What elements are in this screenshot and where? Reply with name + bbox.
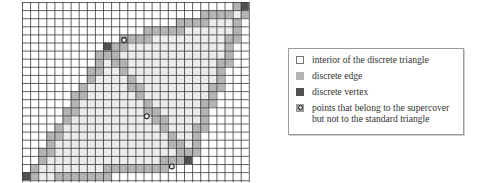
- legend-item-supercover-point: points that belong to the supercover but…: [296, 102, 463, 124]
- interior-cell: [103, 67, 111, 75]
- empty-cell: [22, 2, 30, 10]
- edge-cell: [63, 107, 71, 115]
- empty-cell: [63, 26, 71, 34]
- empty-cell: [30, 156, 38, 164]
- empty-cell: [46, 51, 54, 59]
- interior-cell: [103, 132, 111, 140]
- empty-cell: [63, 34, 71, 42]
- empty-cell: [119, 26, 127, 34]
- supercover-point-icon: [169, 164, 174, 169]
- empty-cell: [22, 148, 30, 156]
- empty-cell: [79, 67, 87, 75]
- interior-cell: [119, 148, 127, 156]
- interior-cell: [184, 91, 192, 99]
- interior-cell: [184, 43, 192, 51]
- interior-cell: [111, 67, 119, 75]
- empty-cell: [168, 18, 176, 26]
- interior-cell: [176, 43, 184, 51]
- empty-cell: [46, 75, 54, 83]
- edge-cell: [103, 164, 111, 172]
- interior-cell: [192, 26, 200, 34]
- edge-cell: [95, 59, 103, 67]
- interior-cell: [160, 43, 168, 51]
- empty-cell: [176, 172, 184, 180]
- interior-cell: [87, 115, 95, 123]
- empty-cell: [103, 10, 111, 18]
- empty-cell: [200, 140, 208, 148]
- interior-cell: [192, 75, 200, 83]
- empty-cell: [30, 67, 38, 75]
- empty-cell: [200, 164, 208, 172]
- interior-cell: [208, 51, 216, 59]
- empty-cell: [63, 51, 71, 59]
- interior-cell: [119, 124, 127, 132]
- empty-cell: [71, 51, 79, 59]
- empty-cell: [71, 10, 79, 18]
- interior-cell: [46, 156, 54, 164]
- interior-cell: [71, 156, 79, 164]
- interior-cell: [216, 18, 224, 26]
- edge-cell: [184, 148, 192, 156]
- interior-cell: [103, 99, 111, 107]
- empty-cell: [208, 140, 216, 148]
- empty-cell: [208, 164, 216, 172]
- empty-cell: [38, 18, 46, 26]
- empty-cell: [160, 18, 168, 26]
- interior-cell: [46, 164, 54, 172]
- interior-cell: [184, 75, 192, 83]
- empty-cell: [30, 18, 38, 26]
- empty-cell: [241, 107, 249, 115]
- empty-cell: [184, 164, 192, 172]
- interior-cell: [63, 164, 71, 172]
- edge-cell: [216, 67, 224, 75]
- interior-cell: [192, 99, 200, 107]
- empty-cell: [46, 91, 54, 99]
- empty-cell: [241, 75, 249, 83]
- edge-cell: [216, 75, 224, 83]
- interior-cell: [176, 99, 184, 107]
- interior-cell: [200, 51, 208, 59]
- interior-cell: [144, 67, 152, 75]
- interior-cell: [192, 34, 200, 42]
- empty-cell: [233, 59, 241, 67]
- interior-cell: [168, 83, 176, 91]
- interior-cell: [208, 26, 216, 34]
- interior-cell: [192, 51, 200, 59]
- edge-cell: [200, 107, 208, 115]
- empty-cell: [233, 51, 241, 59]
- interior-cell: [87, 164, 95, 172]
- interior-cell: [216, 34, 224, 42]
- empty-cell: [38, 115, 46, 123]
- empty-cell: [22, 91, 30, 99]
- empty-cell: [241, 115, 249, 123]
- interior-cell: [200, 75, 208, 83]
- interior-cell: [176, 91, 184, 99]
- interior-cell: [160, 148, 168, 156]
- empty-cell: [241, 51, 249, 59]
- empty-cell: [208, 148, 216, 156]
- interior-cell: [152, 156, 160, 164]
- vertex-cell: [184, 156, 192, 164]
- empty-cell: [46, 43, 54, 51]
- empty-cell: [241, 26, 249, 34]
- edge-cell: [127, 164, 135, 172]
- interior-cell: [208, 75, 216, 83]
- empty-cell: [241, 164, 249, 172]
- empty-cell: [79, 51, 87, 59]
- interior-cell: [184, 132, 192, 140]
- interior-cell: [135, 67, 143, 75]
- interior-cell: [135, 99, 143, 107]
- empty-cell: [71, 18, 79, 26]
- interior-cell: [103, 59, 111, 67]
- interior-cell: [119, 156, 127, 164]
- empty-cell: [241, 34, 249, 42]
- empty-cell: [79, 59, 87, 67]
- empty-cell: [111, 2, 119, 10]
- empty-cell: [63, 67, 71, 75]
- empty-cell: [233, 164, 241, 172]
- interior-cell: [87, 140, 95, 148]
- interior-cell: [87, 148, 95, 156]
- empty-cell: [63, 83, 71, 91]
- edge-cell: [30, 172, 38, 180]
- interior-cell: [200, 59, 208, 67]
